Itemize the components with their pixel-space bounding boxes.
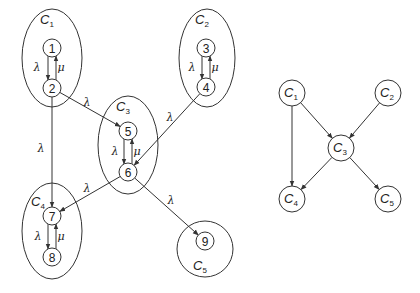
edge-arrow (134, 94, 200, 166)
edge-4-6: λ (134, 94, 200, 166)
state-node-3: 3 (197, 39, 215, 57)
dag-edge-c2-c3 (349, 103, 379, 138)
cluster-label: C5 (193, 258, 207, 275)
edge-5-6: λ (111, 139, 124, 164)
mu-rate-label: μ (133, 145, 140, 158)
dag-edge-c1-c3 (301, 103, 333, 139)
cluster-node-c3: C3 (328, 135, 354, 161)
state-node-9: 9 (196, 232, 214, 250)
mu-rate-label: μ (211, 61, 218, 74)
state-number: 9 (202, 235, 209, 249)
edge-2-7: λ (37, 97, 52, 207)
state-number: 5 (125, 125, 132, 139)
edge-7-8: λ (34, 224, 48, 249)
state-number: 4 (203, 81, 210, 95)
lambda-rate-label: λ (167, 194, 175, 207)
state-node-6: 6 (119, 163, 137, 181)
state-node-5: 5 (119, 122, 137, 140)
cluster-label: C1 (40, 12, 54, 29)
state-node-2: 2 (43, 79, 61, 97)
lambda-rate-label: λ (83, 96, 91, 109)
dag-edge-c3-c5 (350, 158, 379, 190)
lambda-rate-label: λ (37, 142, 45, 155)
edge-8-7: μ (56, 224, 65, 249)
lambda-rate-label: λ (111, 145, 119, 158)
edge-4-3: μ (210, 56, 219, 79)
state-number: 6 (125, 166, 132, 180)
lambda-rate-label: λ (33, 61, 41, 74)
state-node-7: 7 (43, 207, 61, 225)
state-number: 3 (203, 42, 210, 56)
state-node-8: 8 (43, 248, 61, 266)
diagram-canvas: C1C2C3C4C5 λμλμλμλμλλλλλ 123456789 C1C2C… (0, 0, 420, 293)
cluster-label: C4 (31, 194, 45, 211)
cluster-node-c1: C1 (279, 80, 305, 106)
edge-2-5: λ (60, 92, 120, 126)
lambda-rate-label: λ (188, 61, 196, 74)
lambda-rate-label: λ (166, 111, 174, 124)
lambda-rate-label: λ (83, 182, 91, 195)
dag-edge-c3-c4 (301, 157, 332, 189)
cluster-node-c5: C5 (375, 186, 401, 212)
edge-arrow (135, 178, 199, 235)
edge-1-2: λ (33, 56, 48, 80)
mu-rate-label: μ (57, 61, 64, 74)
state-number: 8 (49, 251, 56, 265)
lambda-rate-label: λ (34, 230, 42, 243)
cluster-node-c2: C2 (375, 80, 401, 106)
edge-3-4: λ (188, 56, 202, 79)
state-number: 7 (49, 210, 56, 224)
cluster-label: C2 (195, 12, 209, 29)
state-number: 2 (49, 82, 56, 96)
edge-2-1: μ (56, 56, 65, 80)
cluster-node-c4: C4 (279, 186, 305, 212)
edge-6-7: λ (60, 177, 120, 212)
right-graph-nodes: C1C2C3C4C5 (279, 80, 401, 212)
state-number: 1 (49, 42, 56, 56)
state-node-1: 1 (43, 39, 61, 57)
mu-rate-label: μ (57, 230, 64, 243)
markov-cluster-diagram: C1C2C3C4C5 λμλμλμλμλλλλλ 123456789 C1C2C… (0, 0, 420, 293)
state-node-4: 4 (197, 78, 215, 96)
cluster-label: C3 (116, 99, 130, 116)
edge-6-9: λ (135, 178, 199, 235)
